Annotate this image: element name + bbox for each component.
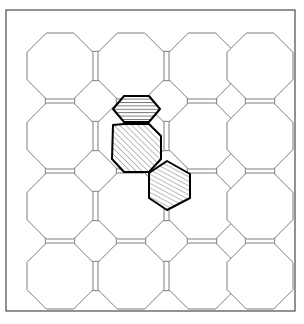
figure-root: [0, 0, 304, 324]
tile-octagon: [27, 173, 93, 239]
tile-octagon: [169, 103, 235, 169]
tile-octagon: [227, 243, 293, 309]
tile-octagon: [227, 173, 293, 239]
tile-octagon: [27, 33, 93, 99]
tiling-diagram: [0, 0, 304, 324]
tile-octagon: [98, 33, 164, 99]
highlight-top-hexagon: [113, 96, 160, 122]
tile-octagon: [227, 103, 293, 169]
highlight-center-octagon: [112, 124, 161, 172]
tile-octagon: [27, 243, 93, 309]
tile-octagon: [227, 33, 293, 99]
tile-octagon: [27, 103, 93, 169]
tile-octagon: [169, 33, 235, 99]
tile-octagon: [98, 243, 164, 309]
tile-octagon: [169, 243, 235, 309]
